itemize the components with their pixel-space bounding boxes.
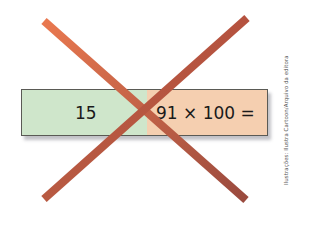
multiplication-expression: 91 × 100 =: [156, 103, 255, 123]
card-right-panel: 91 × 100 =: [147, 90, 267, 135]
card-left-panel: 15: [22, 90, 147, 135]
image-credit: Ilustrações: Ilustra Cartoon/Arquivo da …: [283, 55, 289, 185]
left-number: 15: [75, 103, 97, 123]
math-card: 15 91 × 100 =: [21, 89, 268, 136]
